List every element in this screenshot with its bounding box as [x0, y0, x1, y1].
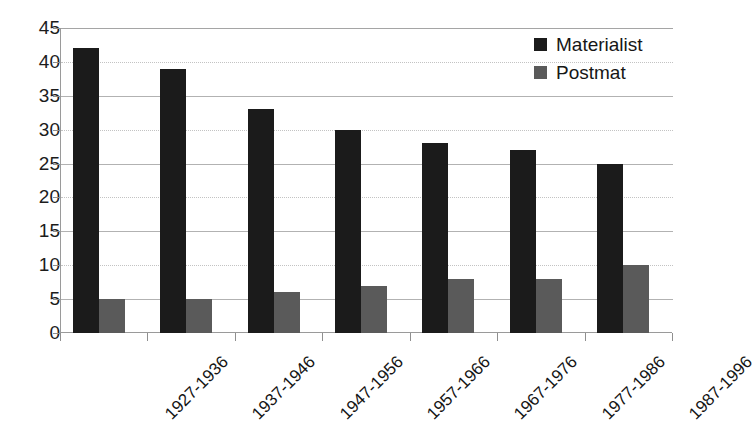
bar-materialist: [597, 164, 623, 333]
x-tick-mark: [322, 333, 323, 341]
x-tick-mark: [60, 333, 61, 341]
x-axis: 1927-19361937-19461947-19561957-19661967…: [0, 333, 695, 444]
y-tick-mark: [53, 62, 60, 63]
y-tick-mark: [53, 197, 60, 198]
y-tick-mark: [53, 28, 60, 29]
x-tick-label: 1977-1986: [599, 353, 669, 423]
legend-item-postmat[interactable]: Postmat: [534, 58, 674, 86]
legend-item-materialist[interactable]: Materialist: [534, 30, 674, 58]
x-tick-label: 1967-1976: [511, 353, 581, 423]
x-tick-mark: [235, 333, 236, 341]
y-tick-mark: [53, 265, 60, 266]
legend-label-postmat: Postmat: [556, 63, 626, 82]
bar-materialist: [335, 130, 361, 333]
bar-materialist: [73, 48, 99, 333]
legend-swatch-postmat: [534, 66, 547, 79]
x-tick-mark: [672, 333, 673, 341]
bar-postmat: [448, 279, 474, 333]
bar-postmat: [99, 299, 125, 333]
bar-postmat: [623, 265, 649, 333]
x-tick-label: 1937-1946: [249, 353, 319, 423]
y-tick-mark: [53, 130, 60, 131]
bar-postmat: [361, 286, 387, 333]
bar-postmat: [274, 292, 300, 333]
legend-label-materialist: Materialist: [556, 35, 643, 54]
x-tick-label: 1987-1996: [686, 353, 756, 423]
y-axis: 454035302520151050: [0, 28, 60, 333]
x-tick-label: 1947-1956: [336, 353, 406, 423]
bar-postmat: [536, 279, 562, 333]
x-tick-mark: [585, 333, 586, 341]
legend: Materialist Postmat: [534, 30, 674, 86]
bar-materialist: [510, 150, 536, 333]
y-tick-mark: [53, 299, 60, 300]
x-tick-mark: [410, 333, 411, 341]
bar-materialist: [422, 143, 448, 333]
x-tick-mark: [147, 333, 148, 341]
y-tick-mark: [53, 231, 60, 232]
x-tick-label: 1957-1966: [424, 353, 494, 423]
bar-materialist: [160, 69, 186, 333]
x-tick-mark: [497, 333, 498, 341]
y-tick-mark: [53, 164, 60, 165]
bar-postmat: [186, 299, 212, 333]
y-tick-mark: [53, 96, 60, 97]
x-tick-label: 1927-1936: [162, 353, 232, 423]
bar-materialist: [248, 109, 274, 333]
legend-swatch-materialist: [534, 38, 547, 51]
